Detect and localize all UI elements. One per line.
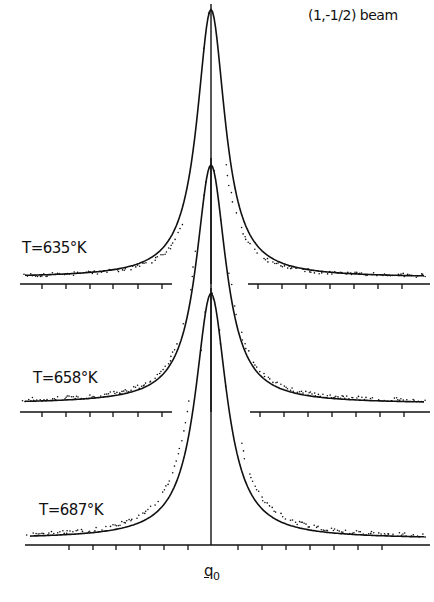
data-point (64, 398, 66, 400)
data-point (241, 442, 243, 444)
data-point (55, 274, 57, 276)
data-point (169, 480, 171, 482)
data-point (284, 265, 286, 267)
data-point (314, 392, 316, 394)
data-point (293, 266, 295, 268)
data-point (322, 393, 324, 395)
data-point (213, 298, 215, 300)
data-point (373, 272, 375, 274)
data-point (167, 484, 169, 486)
data-point (126, 520, 128, 522)
data-point (290, 520, 292, 522)
data-point (398, 275, 400, 277)
data-point (46, 399, 48, 401)
data-point (94, 530, 96, 532)
data-point (52, 535, 54, 537)
data-point (155, 257, 157, 259)
data-point (373, 532, 375, 534)
data-point (397, 399, 399, 401)
data-point (243, 450, 245, 452)
data-point (299, 391, 301, 393)
data-point (394, 397, 396, 399)
data-point (135, 387, 137, 389)
data-point (82, 531, 84, 533)
data-point (128, 519, 130, 521)
data-point (43, 399, 45, 401)
data-point (150, 381, 152, 383)
data-point (126, 390, 128, 392)
data-point (105, 526, 107, 528)
data-point (203, 194, 205, 196)
data-point (220, 219, 222, 221)
data-point (160, 254, 162, 256)
data-point (40, 276, 42, 278)
data-point (397, 535, 399, 537)
data-point (200, 350, 202, 352)
data-point (94, 396, 96, 398)
data-point (139, 266, 141, 268)
data-point (356, 397, 358, 399)
data-point (370, 533, 372, 535)
data-point (384, 273, 386, 275)
data-point (378, 532, 380, 534)
data-point (367, 274, 369, 276)
data-point (174, 239, 176, 241)
data-point (232, 201, 234, 203)
figure: (1,-1/2) beam T=635°K T=658°K T=687°K q0 (0, 0, 434, 602)
data-point (27, 275, 29, 277)
data-point (280, 383, 282, 385)
data-point (417, 401, 419, 403)
data-point (162, 254, 164, 256)
data-point (192, 266, 194, 268)
data-point (81, 398, 83, 400)
data-point (101, 271, 103, 273)
data-point (164, 254, 166, 256)
data-point (313, 270, 315, 272)
data-point (363, 274, 365, 276)
data-point (94, 270, 96, 272)
data-point (327, 395, 329, 397)
data-point (110, 526, 112, 528)
data-point (53, 533, 55, 535)
data-point (344, 397, 346, 399)
data-point (327, 273, 329, 275)
data-point (52, 398, 54, 400)
data-point (145, 262, 147, 264)
data-point (242, 339, 244, 341)
data-point (311, 393, 313, 395)
data-point (256, 489, 258, 491)
q0-subscript: 0 (213, 570, 220, 583)
data-point (307, 394, 309, 396)
data-point (118, 271, 120, 273)
data-point (416, 277, 418, 279)
data-point (350, 272, 352, 274)
data-point (297, 392, 299, 394)
data-point (241, 227, 243, 229)
data-point (178, 453, 180, 455)
data-point (110, 391, 112, 393)
data-point (154, 504, 156, 506)
data-point (331, 397, 333, 399)
data-point (419, 401, 421, 403)
data-point (125, 522, 127, 524)
data-point (376, 275, 378, 277)
data-point (46, 275, 48, 277)
data-point (349, 533, 351, 535)
data-point (195, 251, 197, 253)
data-point (142, 512, 144, 514)
data-point (54, 398, 56, 400)
data-point (172, 351, 174, 353)
data-point (384, 533, 386, 535)
data-point (370, 398, 372, 400)
data-point (121, 391, 123, 393)
data-point (346, 395, 348, 397)
data-point (35, 533, 37, 535)
data-point (135, 266, 137, 268)
data-point (22, 400, 24, 402)
data-point (299, 521, 301, 523)
data-point (203, 47, 205, 49)
data-point (106, 272, 108, 274)
data-point (305, 391, 307, 393)
data-point (409, 536, 411, 538)
data-point (45, 400, 47, 402)
